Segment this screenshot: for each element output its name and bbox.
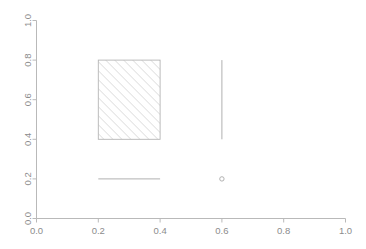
hatched-rectangle [98,60,160,139]
plot-svg: 0.00.20.40.60.81.00.00.20.40.60.81.0 [0,0,366,249]
x-tick-label-1: 0.2 [92,225,105,236]
y-tick-label-1: 0.2 [22,172,33,185]
y-tick-label-2: 0.4 [22,133,33,146]
plot-background [0,0,366,249]
plot-canvas: 0.00.20.40.60.81.00.00.20.40.60.81.0 [0,0,366,249]
x-tick-label-2: 0.4 [153,225,166,236]
y-tick-label-3: 0.6 [22,93,33,106]
y-tick-label-5: 1.0 [22,14,33,27]
x-tick-label-0: 0.0 [30,225,43,236]
x-tick-label-5: 1.0 [339,225,352,236]
y-tick-label-0: 0.0 [22,212,33,225]
x-tick-label-4: 0.8 [277,225,290,236]
x-tick-label-3: 0.6 [215,225,228,236]
y-tick-label-4: 0.8 [22,53,33,66]
